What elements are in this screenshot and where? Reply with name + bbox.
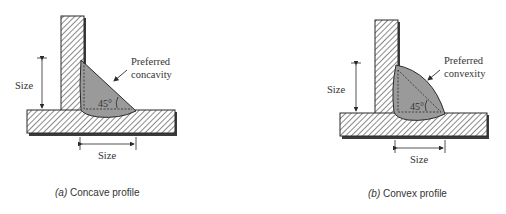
caption-text: Concave profile [67, 187, 140, 198]
caption-letter: (a) [55, 187, 67, 198]
angle-label: 45° [98, 98, 112, 109]
callout-line2: convexity [444, 68, 486, 79]
caption-a: (a) Concave profile [55, 187, 140, 198]
figure-convex: 45° Size Size Preferred convexity (b) Co… [327, 20, 489, 199]
figure-concave: 45° Size Size Preferred concavity (a) Co… [15, 16, 177, 198]
caption-text: Convex profile [380, 188, 447, 199]
callout-arrow [428, 70, 440, 80]
fillet-weld-profiles-diagram: 45° Size Size Preferred concavity (a) Co… [0, 0, 506, 214]
horizontal-size-label: Size [98, 150, 116, 161]
callout-arrow [114, 70, 127, 81]
horizontal-size-label: Size [410, 154, 428, 165]
caption-b: (b) Convex profile [368, 188, 447, 199]
callout-line1: Preferred [444, 55, 484, 66]
callout-line2: concavity [131, 69, 173, 80]
vertical-size-label: Size [15, 80, 33, 91]
angle-label: 45° [410, 101, 424, 112]
vertical-size-label: Size [327, 84, 345, 95]
callout-line1: Preferred [131, 56, 171, 67]
caption-letter: (b) [368, 188, 380, 199]
